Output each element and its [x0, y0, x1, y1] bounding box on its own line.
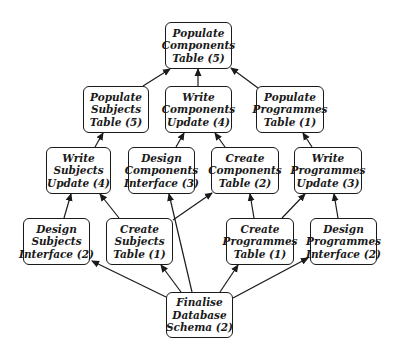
task-label-line: Finalise	[176, 296, 222, 309]
task-node-write-prog: WriteProgrammesUpdate (3)	[294, 147, 362, 194]
task-label-line: Schema (2)	[166, 321, 233, 334]
task-node-pop-comp: PopulateComponentsTable (5)	[165, 22, 232, 69]
task-label-line: Create	[241, 223, 280, 236]
task-node-design-prog: DesignProgrammesInterface (2)	[310, 218, 377, 265]
task-label-line: Components	[208, 164, 282, 177]
task-dependency-diagram: PopulateComponentsTable (5)PopulateSubje…	[0, 0, 396, 355]
task-label-line: Write	[62, 152, 94, 165]
task-label-line: Programmes	[306, 235, 381, 248]
arrow-write_subj-to-pop_subj	[95, 133, 103, 147]
task-node-create-comp: CreateComponentsTable (2)	[211, 147, 279, 194]
task-label-line: Subjects	[31, 235, 81, 248]
task-label-line: Table (1)	[264, 116, 317, 129]
arrow-finalise-to-design_subj	[92, 261, 166, 297]
task-label-line: Design	[36, 223, 77, 236]
arrow-create_prog-to-create_comp	[250, 194, 254, 218]
arrow-design_subj-to-write_subj	[64, 194, 71, 218]
task-node-create-prog: CreateProgrammesTable (1)	[226, 218, 294, 265]
task-label-line: Table (1)	[113, 248, 166, 261]
task-label-line: Write	[182, 91, 214, 104]
task-node-pop-subj: PopulateSubjectsTable (5)	[83, 86, 149, 133]
task-label-line: Update (4)	[47, 177, 110, 190]
task-label-line: Update (3)	[296, 177, 359, 190]
arrow-pop_prog-to-pop_comp	[231, 68, 258, 88]
task-node-design-comp: DesignComponentsInterface (3)	[128, 147, 195, 194]
task-node-finalise: FinaliseDatabaseSchema (2)	[166, 292, 233, 338]
task-node-create-subj: CreateSubjectsTable (1)	[106, 218, 173, 265]
task-label-line: Subjects	[53, 164, 103, 177]
arrow-create_comp-to-write_comp	[215, 133, 225, 147]
arrow-create_subj-to-create_comp	[173, 193, 212, 220]
task-label-line: Write	[312, 152, 344, 165]
task-node-design-subj: DesignSubjectsInterface (2)	[23, 218, 90, 265]
task-label-line: Table (2)	[219, 177, 272, 190]
task-label-line: Update (4)	[167, 116, 230, 129]
task-label-line: Subjects	[114, 235, 164, 248]
arrow-finalise-to-create_subj	[161, 265, 181, 292]
task-label-line: Interface (2)	[19, 248, 94, 261]
task-node-write-subj: WriteSubjectsUpdate (4)	[46, 147, 111, 194]
arrow-create_prog-to-write_prog	[282, 194, 305, 218]
task-label-line: Design	[141, 152, 182, 165]
task-label-line: Table (5)	[90, 116, 143, 129]
task-label-line: Table (1)	[234, 248, 287, 261]
task-label-line: Create	[120, 223, 159, 236]
task-node-pop-prog: PopulateProgrammesTable (1)	[256, 86, 324, 133]
task-label-line: Design	[323, 223, 364, 236]
task-label-line: Table (5)	[172, 52, 225, 65]
task-label-line: Programmes	[253, 103, 328, 116]
arrow-design_comp-to-write_comp	[176, 133, 184, 147]
task-label-line: Programmes	[291, 164, 366, 177]
task-node-write-comp: WriteComponentsUpdate (4)	[165, 86, 232, 133]
arrow-create_subj-to-write_subj	[100, 194, 119, 218]
task-label-line: Populate	[173, 27, 225, 40]
task-label-line: Components	[162, 103, 236, 116]
task-label-line: Create	[226, 152, 265, 165]
task-label-line: Interface (2)	[306, 248, 381, 261]
task-label-line: Database	[172, 309, 226, 322]
task-label-line: Components	[125, 164, 199, 177]
task-label-line: Programmes	[223, 235, 298, 248]
task-label-line: Populate	[264, 91, 316, 104]
task-label-line: Subjects	[91, 103, 141, 116]
task-label-line: Populate	[90, 91, 142, 104]
task-label-line: Components	[162, 39, 236, 52]
arrow-design_prog-to-write_prog	[334, 194, 338, 218]
task-label-line: Interface (3)	[124, 177, 199, 190]
arrow-finalise-to-create_prog	[220, 265, 238, 292]
arrow-write_prog-to-pop_prog	[303, 133, 312, 147]
arrow-pop_subj-to-pop_comp	[143, 69, 170, 86]
